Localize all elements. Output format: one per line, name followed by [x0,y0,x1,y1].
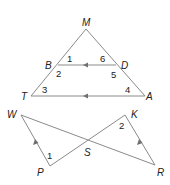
parallel-arrow-icon-bd [83,63,88,68]
triangle-mta: M B D T A 1 2 3 4 5 6 [21,17,153,102]
crossed-triangles: W P S K R 1 2 [7,109,164,178]
parallel-arrow-icon-ta [83,94,88,99]
segment-mt [31,29,86,96]
angle-label-3: 3 [42,84,47,95]
segment-ma [86,29,145,96]
vertex-label-t: T [21,91,28,102]
angle-label-6: 6 [100,53,105,64]
vertex-label-w: W [7,109,18,120]
vertex-label-s: S [84,147,91,158]
angle-label-1-lower: 1 [47,150,52,161]
angle-label-1: 1 [67,53,72,64]
angle-label-2-lower: 2 [119,120,124,131]
vertex-label-b: B [45,60,52,71]
vertex-label-r: R [157,167,164,178]
vertex-label-m: M [82,17,91,28]
segment-kr [125,115,155,165]
vertex-label-a: A [145,91,153,102]
vertex-label-d: D [121,60,128,71]
geometry-figure: M B D T A 1 2 3 4 5 6 W P S K R 1 2 [0,0,170,185]
angle-label-4: 4 [125,84,130,95]
angle-label-2: 2 [56,68,61,79]
vertex-label-k: K [131,109,139,120]
angle-label-5: 5 [111,69,116,80]
segment-pk [50,115,125,166]
diagram-svg: M B D T A 1 2 3 4 5 6 W P S K R 1 2 [0,0,170,185]
vertex-label-p: P [37,167,44,178]
